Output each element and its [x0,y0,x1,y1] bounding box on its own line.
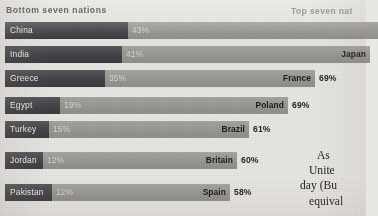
bar-bottom-nation: India [5,46,122,63]
bar-label-bottom-nation: Turkey [10,124,36,134]
article-body-text: As Unite day (Bu equival [300,148,366,216]
bar-label-top-nation: Britain [206,155,233,165]
bar-label-top-nation: Poland [255,100,284,110]
bar-bottom-nation: Greece [5,70,105,87]
body-text-line: equival [300,194,366,209]
bar-value-top-nation: 69% [319,73,337,83]
bar-top-nation: France [105,70,315,87]
bar-value-bottom-nation: 12% [47,155,64,165]
bar-label-bottom-nation: Greece [10,73,39,83]
bar-bottom-nation: Jordan [5,152,43,169]
bar-top-nation: Britain [43,152,237,169]
bar-value-bottom-nation: 19% [64,100,81,110]
bar-label-top-nation: Brazil [222,124,245,134]
bar-value-bottom-nation: 12% [56,187,73,197]
bar-bottom-nation: Turkey [5,121,49,138]
chart-header-top-nations: Top seven nat [291,6,353,16]
chart-row: Greece France 35% 69% [0,70,366,87]
bar-top-nation: Japan [122,46,370,63]
bar-value-bottom-nation: 41% [126,49,143,59]
bar-chart: Bottom seven nations China 43% India Jap… [0,0,296,216]
bar-value-bottom-nation: 35% [109,73,126,83]
body-text-line: As [300,148,366,163]
body-text-line: day (Bu [300,178,366,193]
bar-bottom-nation: Pakistan [5,184,52,201]
bar-value-top-nation: 60% [241,155,259,165]
bar-label-bottom-nation: Jordan [10,155,37,165]
bar-label-top-nation: Japan [341,49,366,59]
body-text-line: Unite [300,163,366,178]
chart-row: China 43% [0,22,366,39]
bar-label-bottom-nation: China [10,25,33,35]
chart-row: Egypt Poland 19% 69% [0,97,366,114]
chart-header-bottom-nations: Bottom seven nations [6,5,107,15]
bar-top-nation [128,22,378,39]
bar-value-bottom-nation: 15% [53,124,70,134]
bar-top-nation: Poland [60,97,288,114]
bar-top-nation: Brazil [49,121,249,138]
bar-bottom-nation: Egypt [5,97,60,114]
bar-value-top-nation: 69% [292,100,310,110]
bar-value-top-nation: 58% [234,187,252,197]
bar-value-bottom-nation: 43% [132,25,149,35]
bar-label-bottom-nation: India [10,49,29,59]
chart-row: Turkey Brazil 15% 61% [0,121,366,138]
bar-label-top-nation: France [283,73,311,83]
bar-top-nation: Spain [52,184,230,201]
bar-bottom-nation: China [5,22,128,39]
bar-label-top-nation: Spain [203,187,226,197]
bar-value-top-nation: 61% [253,124,271,134]
bar-label-bottom-nation: Pakistan [10,187,44,197]
chart-row: India Japan 41% [0,46,366,63]
bar-label-bottom-nation: Egypt [10,100,32,110]
